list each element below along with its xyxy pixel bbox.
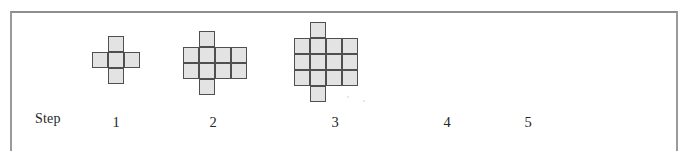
step-number-4: 4 xyxy=(437,115,457,130)
scan-speckle xyxy=(363,100,365,102)
tile-square xyxy=(199,63,215,79)
tile-square xyxy=(310,70,326,86)
tile-square xyxy=(199,79,215,95)
tile-square xyxy=(326,70,342,86)
step-number-2: 2 xyxy=(203,115,223,130)
tile-square xyxy=(342,54,358,70)
tile-square xyxy=(231,63,247,79)
step-number-5: 5 xyxy=(518,115,538,130)
tile-square xyxy=(294,38,310,54)
figure-canvas: Step 1 2 3 4 5 xyxy=(0,0,689,151)
tile-square xyxy=(183,47,199,63)
tile-square xyxy=(326,54,342,70)
step-2-tile-figure xyxy=(183,31,247,95)
step-3-tile-figure xyxy=(294,22,358,102)
tile-square xyxy=(183,63,199,79)
tile-square xyxy=(231,47,247,63)
tile-square xyxy=(310,22,326,38)
tile-square xyxy=(342,70,358,86)
tile-square xyxy=(92,52,108,68)
step-number-3: 3 xyxy=(325,115,345,130)
tile-square xyxy=(199,31,215,47)
tile-square xyxy=(294,54,310,70)
tile-square xyxy=(326,38,342,54)
tile-square xyxy=(342,38,358,54)
tile-square xyxy=(310,38,326,54)
tile-square xyxy=(108,36,124,52)
tile-square xyxy=(294,70,310,86)
tile-square xyxy=(310,86,326,102)
step-number-1: 1 xyxy=(106,115,126,130)
tile-square xyxy=(108,68,124,84)
tile-square xyxy=(215,47,231,63)
tile-square xyxy=(199,47,215,63)
step-1-tile-figure xyxy=(92,36,140,84)
tile-square xyxy=(215,63,231,79)
scan-speckle xyxy=(347,96,349,98)
tile-square xyxy=(310,54,326,70)
tile-square xyxy=(108,52,124,68)
step-row-label: Step xyxy=(35,112,61,126)
tile-square xyxy=(124,52,140,68)
